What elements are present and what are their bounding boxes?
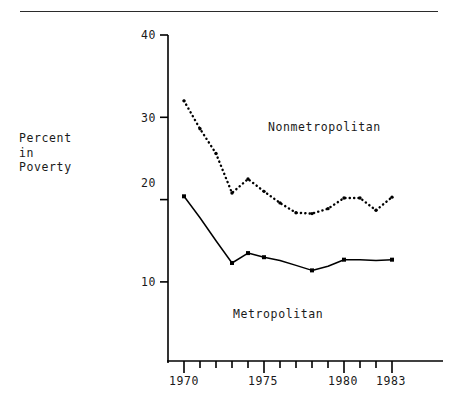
data-point-metropolitan-1980 [342, 258, 346, 262]
data-point-nonmetropolitan-1983 [390, 195, 393, 198]
data-point-nonmetropolitan-1971 [198, 127, 201, 130]
data-point-metropolitan-1983 [390, 258, 394, 262]
data-point-nonmetropolitan-1974 [246, 177, 249, 180]
data-point-nonmetropolitan-1970 [182, 99, 185, 102]
data-series [182, 99, 394, 272]
data-point-nonmetropolitan-1982 [374, 209, 377, 212]
plot-area [0, 0, 451, 416]
data-point-nonmetropolitan-1977 [294, 211, 297, 214]
data-point-nonmetropolitan-1978 [310, 212, 313, 215]
data-point-nonmetropolitan-1980 [342, 196, 345, 199]
chart-figure: Percent in Poverty 40 30 20 10 1970 1975… [0, 0, 451, 416]
data-point-nonmetropolitan-1979 [326, 207, 329, 210]
data-point-metropolitan-1970 [182, 194, 186, 198]
series-line-metropolitan [184, 196, 392, 270]
data-point-metropolitan-1975 [262, 255, 266, 259]
data-point-nonmetropolitan-1972 [214, 152, 217, 155]
axes [160, 35, 443, 373]
data-point-nonmetropolitan-1976 [278, 201, 281, 204]
data-point-metropolitan-1978 [310, 268, 314, 272]
data-point-nonmetropolitan-1973 [230, 191, 233, 194]
data-point-nonmetropolitan-1981 [358, 196, 361, 199]
data-point-metropolitan-1974 [246, 251, 250, 255]
data-point-nonmetropolitan-1975 [262, 190, 265, 193]
data-point-metropolitan-1973 [230, 261, 234, 265]
